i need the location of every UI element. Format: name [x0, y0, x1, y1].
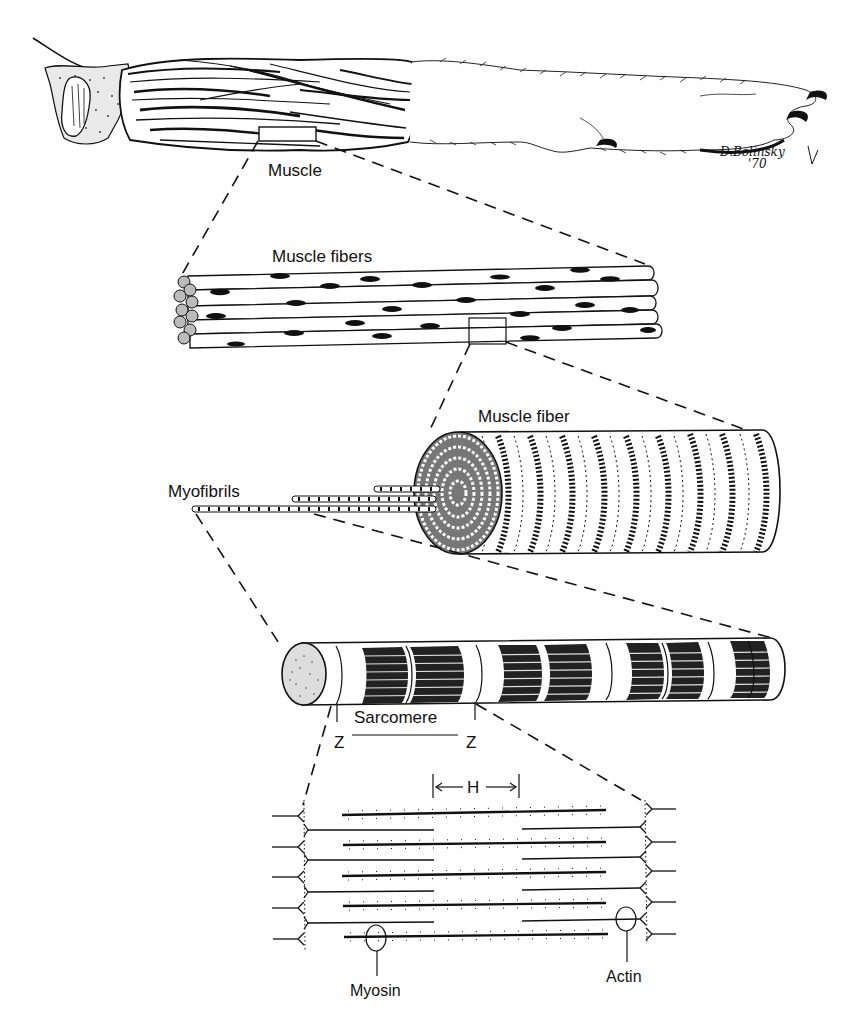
label-myofibrils: Myofibrils	[168, 482, 240, 501]
zoom-line	[180, 141, 258, 278]
label-z-line-left: Z	[334, 733, 344, 752]
muscle-sample-box	[259, 127, 316, 141]
label-h-zone: H	[467, 778, 479, 797]
forelimb-illustration: D.Bolinsky '70	[33, 38, 827, 171]
myofibril-cylinder	[282, 638, 785, 705]
muscle-fiber-cylinder	[414, 430, 780, 554]
artist-signature-year: '70	[748, 157, 767, 171]
myosin-callout	[366, 925, 386, 976]
muscle-structure-figure: D.Bolinsky '70 Muscle Muscle fibers	[0, 0, 867, 1024]
label-muscle-fiber: Muscle fiber	[478, 407, 570, 426]
zoom-line	[316, 141, 645, 264]
zoom-line	[428, 344, 470, 434]
label-muscle-fibers: Muscle fibers	[272, 247, 372, 266]
label-muscle: Muscle	[268, 161, 322, 180]
label-sarcomere: Sarcomere	[354, 708, 437, 727]
label-actin: Actin	[606, 968, 642, 985]
zoom-line	[476, 704, 641, 800]
zoom-line	[303, 706, 331, 805]
zoom-line	[196, 514, 282, 648]
actin-callout	[616, 907, 636, 962]
muscle-fibers-bundle	[174, 266, 662, 348]
label-myosin: Myosin	[350, 982, 401, 999]
label-z-line-right: Z	[466, 733, 476, 752]
